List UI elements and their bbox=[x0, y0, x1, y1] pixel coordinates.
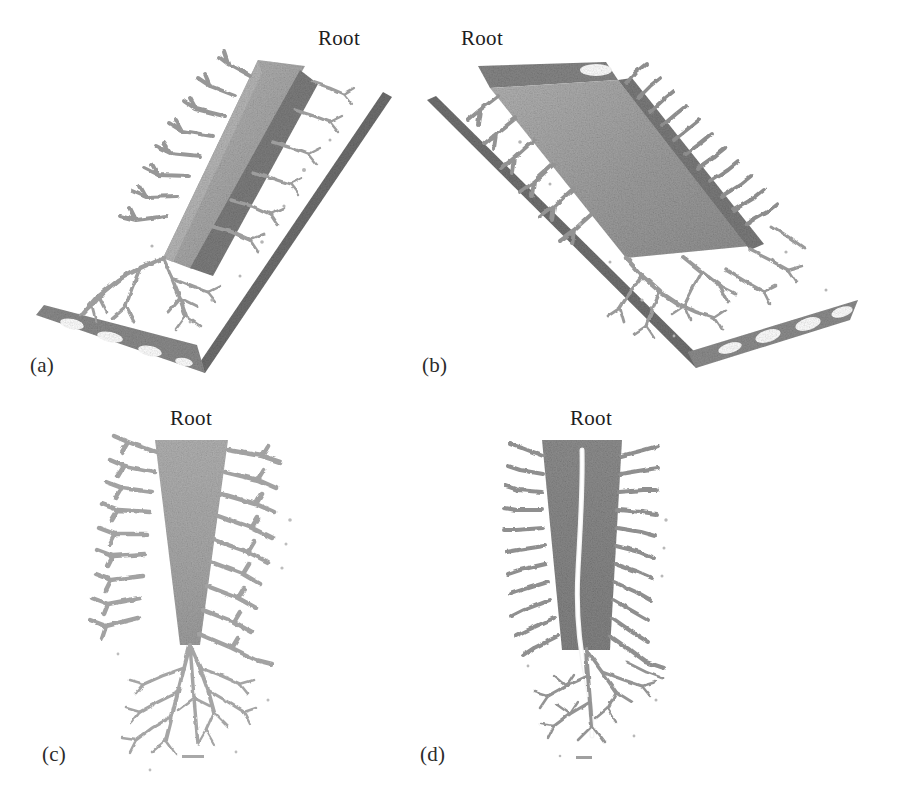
fibrous-network-b bbox=[608, 226, 804, 338]
rootlet-teeth-right-d bbox=[610, 446, 664, 668]
figure-canvas: Root bbox=[0, 0, 899, 801]
speckle-d bbox=[527, 518, 668, 757]
panel-a: Root bbox=[0, 0, 450, 400]
panel-label-a: (a) bbox=[30, 353, 54, 378]
rootlets-left-a bbox=[120, 52, 250, 220]
slab-rail-a bbox=[196, 92, 392, 373]
scale-bar-c bbox=[182, 755, 204, 758]
panel-d: Root bbox=[450, 400, 899, 801]
root-body-c bbox=[155, 440, 228, 645]
lateral-band-b bbox=[618, 78, 764, 250]
rootlets-left-b bbox=[468, 96, 594, 244]
rootlets-left-c bbox=[90, 436, 156, 638]
root-body-a bbox=[163, 60, 305, 269]
panel-c-rendering bbox=[0, 400, 450, 801]
root-label-a: Root bbox=[318, 26, 360, 51]
panel-label-b: (b) bbox=[422, 353, 447, 378]
lateral-band-a bbox=[190, 70, 318, 276]
slab-rail-b bbox=[427, 96, 705, 368]
panel-label-d: (d) bbox=[420, 742, 445, 767]
fibrous-network-a bbox=[80, 82, 354, 330]
root-body-b bbox=[490, 80, 750, 258]
fibrous-network-d bbox=[534, 650, 662, 742]
panel-label-c: (c) bbox=[42, 742, 66, 767]
rootlet-teeth-b bbox=[626, 64, 777, 224]
perforated-plate-b bbox=[688, 300, 858, 368]
panel-d-rendering bbox=[450, 400, 899, 801]
root-label-b: Root bbox=[461, 26, 503, 51]
panel-b-rendering bbox=[420, 0, 899, 400]
root-label-d: Root bbox=[570, 406, 612, 431]
panel-a-rendering bbox=[0, 0, 450, 400]
fibrous-network-c bbox=[122, 645, 256, 754]
central-channel-d bbox=[577, 450, 592, 736]
perforated-plate-a bbox=[36, 305, 205, 373]
root-body-d bbox=[542, 440, 622, 650]
rootlet-teeth-left-d bbox=[504, 444, 558, 656]
rootlets-right-c bbox=[199, 446, 280, 664]
speckle-a bbox=[150, 139, 331, 324]
top-face-b bbox=[478, 62, 618, 88]
speckle-b bbox=[518, 140, 827, 337]
panel-b: Root bbox=[420, 0, 899, 400]
root-label-c: Root bbox=[170, 406, 212, 431]
speckle-c bbox=[117, 518, 292, 771]
panel-c: Root bbox=[0, 400, 450, 801]
scale-bar-d bbox=[576, 756, 592, 759]
